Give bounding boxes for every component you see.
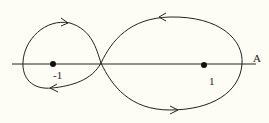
point-one-label: 1: [209, 76, 215, 87]
contour-diagram: [0, 0, 269, 123]
point-one-dot: [201, 62, 207, 68]
point-minus-one-dot: [50, 61, 56, 67]
axis-label: A: [253, 53, 261, 64]
right-lobe-curve: [101, 17, 242, 110]
point-minus-one-label: -1: [53, 70, 62, 81]
